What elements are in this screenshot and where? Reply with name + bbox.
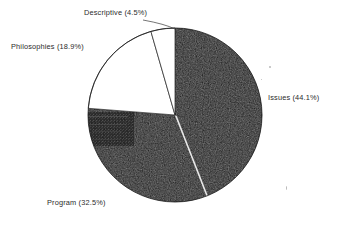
- pie-label-descriptive: Descriptive (4.5%): [84, 9, 147, 17]
- pie-chart-figure: Descriptive (4.5%) Philosophies (18.9%) …: [0, 0, 338, 233]
- pie-label-issues: Issues (44.1%): [268, 94, 319, 102]
- pie-label-program: Program (32.5%): [47, 199, 106, 207]
- scan-dither-artifact: [88, 112, 134, 146]
- pie-label-philosophies: Philosophies (18.9%): [11, 43, 84, 51]
- leader-line-descriptive: [143, 20, 175, 29]
